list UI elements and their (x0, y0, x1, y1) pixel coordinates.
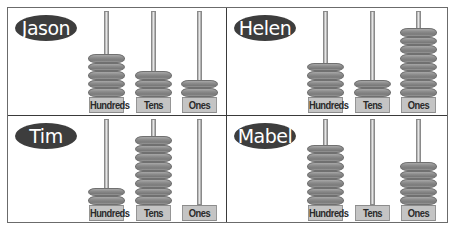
bead (307, 80, 344, 89)
person-name-badge: Jason (15, 15, 77, 41)
bead-stack (400, 28, 437, 97)
bead (400, 188, 437, 197)
bead (135, 179, 172, 188)
bead (307, 153, 344, 162)
column-label: Ones (401, 205, 436, 221)
bead (400, 80, 437, 89)
column-ones: Ones (398, 116, 439, 223)
bead (400, 179, 437, 188)
bead (88, 54, 125, 63)
column-label: Hundreds (89, 97, 124, 113)
bead-stack (135, 71, 172, 97)
column-ones: Ones (179, 8, 220, 115)
bead (88, 80, 125, 89)
bead (400, 71, 437, 80)
bead (307, 162, 344, 171)
bead (307, 196, 344, 205)
column-label: Ones (182, 97, 217, 113)
column-tens: Tens (133, 116, 174, 223)
bead (400, 162, 437, 171)
abacus-panel-helen: Helen Hundreds Tens Ones (227, 8, 446, 115)
column-hundreds: Hundreds (305, 8, 346, 115)
bead (400, 28, 437, 37)
bead-stack (307, 145, 344, 205)
column-label: Ones (401, 97, 436, 113)
bead-stack (88, 188, 125, 205)
bead-stack (400, 162, 437, 205)
column-tens: Tens (352, 8, 393, 115)
bead (181, 88, 218, 97)
column-label: Tens (355, 205, 390, 221)
bead (88, 188, 125, 197)
bead (88, 71, 125, 80)
abacus-rod (370, 119, 375, 205)
bead (135, 162, 172, 171)
person-name-badge: Mabel (234, 123, 296, 149)
column-hundreds: Hundreds (86, 116, 127, 223)
column-tens: Tens (133, 8, 174, 115)
abacus-panel-tim: Tim Hundreds Tens Ones (8, 116, 227, 223)
bead (181, 80, 218, 89)
bead (135, 188, 172, 197)
column-hundreds: Hundreds (86, 8, 127, 115)
column-ones: Ones (179, 116, 220, 223)
bead (135, 171, 172, 180)
bead (88, 63, 125, 72)
abacus-grid: Jason Hundreds Tens Ones Helen Hundreds … (7, 7, 448, 223)
bead (400, 171, 437, 180)
column-label: Hundreds (89, 205, 124, 221)
bead (400, 196, 437, 205)
column-label: Hundreds (308, 97, 343, 113)
abacus-panel-jason: Jason Hundreds Tens Ones (8, 8, 227, 115)
bead (400, 54, 437, 63)
column-label: Tens (136, 205, 171, 221)
bead (354, 88, 391, 97)
bead (307, 88, 344, 97)
bead (135, 145, 172, 154)
bead (354, 80, 391, 89)
bead (400, 37, 437, 46)
column-ones: Ones (398, 8, 439, 115)
column-label: Tens (355, 97, 390, 113)
abacus-rod (197, 119, 202, 205)
bead (135, 88, 172, 97)
bead-stack (135, 136, 172, 205)
bead (135, 136, 172, 145)
person-name-badge: Helen (234, 15, 296, 41)
bead (307, 63, 344, 72)
column-label: Tens (136, 97, 171, 113)
bead-stack (88, 54, 125, 97)
column-label: Ones (182, 205, 217, 221)
column-label: Hundreds (308, 205, 343, 221)
bead (400, 63, 437, 72)
bead (135, 80, 172, 89)
person-name-badge: Tim (15, 123, 77, 149)
bead (307, 188, 344, 197)
column-hundreds: Hundreds (305, 116, 346, 223)
bead-stack (181, 80, 218, 97)
column-tens: Tens (352, 116, 393, 223)
bead (135, 196, 172, 205)
abacus-panel-mabel: Mabel Hundreds Tens Ones (227, 116, 446, 223)
bead (88, 88, 125, 97)
bead (307, 179, 344, 188)
bead-stack (354, 80, 391, 97)
bead (307, 171, 344, 180)
bead (88, 196, 125, 205)
bead (400, 88, 437, 97)
bead (135, 153, 172, 162)
bead (135, 71, 172, 80)
bead (307, 145, 344, 154)
bead (307, 71, 344, 80)
bead (400, 45, 437, 54)
bead-stack (307, 63, 344, 97)
